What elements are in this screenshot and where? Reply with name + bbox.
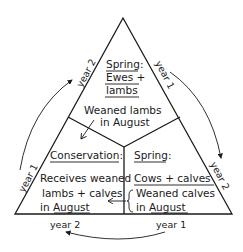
bottom-rotation-arrow: [66, 232, 165, 239]
top-section-title: Spring:: [106, 58, 143, 70]
top-transfer-line1: Weaned lambs: [84, 104, 162, 116]
left-section-title: Conservation:: [50, 149, 123, 161]
right-section-line1: Cows + calves: [134, 172, 211, 184]
top-section-line1: Ewes +: [106, 71, 145, 83]
left-lower-year-label: year 1: [16, 162, 40, 194]
rotation-diagram: Spring: Ewes + lambs Weaned lambs in Aug…: [0, 0, 243, 252]
top-section-line2: lambs: [106, 84, 138, 96]
left-section-line3: in August: [40, 201, 90, 213]
right-section-line3: in August: [136, 201, 186, 213]
left-section-line1: Receives weaned: [40, 172, 131, 184]
right-section-title: Spring:: [134, 149, 171, 161]
calves-brace: [127, 190, 133, 212]
left-section-line2: lambs + calves: [42, 187, 122, 199]
top-transfer-line2: in August: [100, 116, 150, 128]
bottom-left-year-label: year 2: [50, 219, 80, 230]
left-upper-year-label: year 2: [74, 57, 98, 89]
right-section-line2: Weaned calves: [136, 187, 215, 199]
bottom-right-year-label: year 1: [156, 219, 186, 230]
